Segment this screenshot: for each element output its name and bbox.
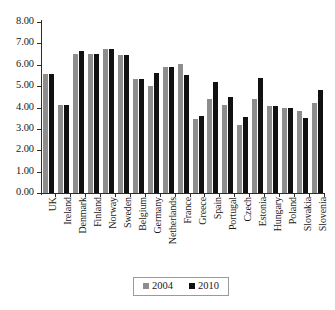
bar	[169, 67, 174, 193]
bar	[193, 119, 198, 193]
legend-label: 2010	[198, 280, 219, 292]
x-axis-label-slovakia: Slovakia	[295, 197, 310, 259]
legend-item-2010: 2010	[189, 280, 219, 292]
bar	[297, 111, 302, 193]
y-axis-tick-label: 5.00	[16, 79, 34, 91]
bar-group	[86, 22, 101, 193]
bar-group	[250, 22, 265, 193]
bar	[118, 55, 123, 193]
bar-group	[235, 22, 250, 193]
bar	[49, 74, 54, 193]
x-axis-label-slovenia: Slovenia	[310, 197, 325, 259]
bar	[88, 54, 93, 193]
y-axis-tick-label: 3.00	[16, 122, 34, 134]
bar	[207, 99, 212, 193]
x-axis-label-belgium: Belgium	[131, 197, 146, 259]
x-axis-label-greece: Greece	[191, 197, 206, 259]
x-axis-label-spain: Spain	[205, 197, 220, 259]
bar	[243, 117, 248, 193]
y-axis-tick-label: 1.00	[16, 165, 34, 177]
bar	[148, 86, 153, 193]
legend-swatch-icon	[189, 283, 195, 289]
y-axis-tick-label: 7.00	[16, 36, 34, 48]
bar-group	[131, 22, 146, 193]
bar-chart: 0.001.002.003.004.005.006.007.008.00 UKI…	[0, 0, 335, 310]
bar	[79, 51, 84, 193]
bar	[94, 54, 99, 193]
bar	[178, 64, 183, 193]
bar-group	[56, 22, 71, 193]
bar	[184, 75, 189, 193]
bar	[73, 54, 78, 193]
x-axis-label-sweden: Sweden	[116, 197, 131, 259]
bar	[282, 108, 287, 194]
bar	[64, 105, 69, 193]
x-axis-label-estonia: Estonia	[250, 197, 265, 259]
chart-legend: 20042010	[133, 277, 229, 296]
bar	[163, 67, 168, 193]
bar-group	[146, 22, 161, 193]
bar	[222, 105, 227, 193]
bar-group	[220, 22, 235, 193]
bar	[58, 105, 63, 193]
bar	[237, 125, 242, 193]
bar	[288, 108, 293, 194]
bar-series-container	[41, 22, 325, 193]
x-axis-label-poland: Poland	[280, 197, 295, 259]
y-axis-tick-label: 0.00	[16, 186, 34, 198]
bar-group	[41, 22, 56, 193]
bar	[213, 82, 218, 193]
y-axis-ticks: 0.001.002.003.004.005.006.007.008.00	[0, 0, 41, 310]
bar-group	[101, 22, 116, 193]
x-axis-label-czech: Czech	[235, 197, 250, 259]
x-axis-label-uk: UK	[41, 197, 56, 259]
x-axis-label-text: Slovenia	[318, 197, 328, 231]
x-axis-label-ireland: Ireland	[56, 197, 71, 259]
bar	[312, 103, 317, 193]
bar	[43, 74, 48, 193]
x-axis-label-portugal: Portugal	[220, 197, 235, 259]
bar	[318, 90, 323, 193]
x-axis-label-netherlands: Netherlands	[161, 197, 176, 259]
y-axis-tick-label: 6.00	[16, 58, 34, 70]
x-axis-label-hungary: Hungary	[265, 197, 280, 259]
bar-group	[310, 22, 325, 193]
legend-item-2004: 2004	[143, 280, 173, 292]
bar-group	[205, 22, 220, 193]
bar	[303, 118, 308, 193]
bar-group	[176, 22, 191, 193]
bar	[133, 79, 138, 193]
y-axis-tick-label: 4.00	[16, 101, 34, 113]
bar	[228, 97, 233, 193]
bar	[103, 49, 108, 193]
y-axis-tick-label: 2.00	[16, 143, 34, 155]
bar	[252, 99, 257, 193]
bar	[199, 116, 204, 193]
x-axis-label-germany: Germany	[146, 197, 161, 259]
bar	[267, 106, 272, 193]
bar-group	[265, 22, 280, 193]
x-axis-label-france: France	[176, 197, 191, 259]
bar-group	[71, 22, 86, 193]
bar	[154, 73, 159, 193]
bar-group	[280, 22, 295, 193]
bar	[139, 79, 144, 193]
bar	[109, 49, 114, 193]
legend-label: 2004	[152, 280, 173, 292]
bar	[258, 78, 263, 193]
bar-group	[191, 22, 206, 193]
bar-group	[161, 22, 176, 193]
x-axis-label-denmark: Denmark	[71, 197, 86, 259]
bar-group	[295, 22, 310, 193]
legend-swatch-icon	[143, 283, 149, 289]
x-axis-labels: UKIrelandDenmarkFinlandNorwaySwedenBelgi…	[41, 197, 325, 259]
x-axis-label-norway: Norway	[101, 197, 116, 259]
bar	[124, 55, 129, 193]
x-axis-label-finland: Finland	[86, 197, 101, 259]
y-axis-tick-label: 8.00	[16, 15, 34, 27]
bar	[273, 106, 278, 193]
bar-group	[116, 22, 131, 193]
